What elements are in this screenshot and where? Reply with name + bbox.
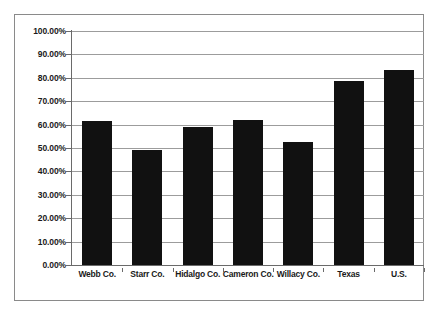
y-axis-tick-label: 50.00% bbox=[18, 144, 66, 153]
x-axis-labels: Webb Co.Starr Co.Hidalgo Co.Cameron Co.W… bbox=[72, 268, 424, 288]
y-axis-labels: 0.00%10.00%20.00%30.00%40.00%50.00%60.00… bbox=[15, 15, 66, 300]
x-axis-tick-label: Starr Co. bbox=[122, 270, 172, 279]
y-axis-tick-label: 80.00% bbox=[18, 74, 66, 83]
x-axis-tick-label: Cameron Co. bbox=[223, 270, 273, 279]
y-axis-tick-label: 0.00% bbox=[18, 261, 66, 270]
x-axis-tick-label: Texas bbox=[323, 270, 373, 279]
y-axis-tick-label: 40.00% bbox=[18, 167, 66, 176]
y-axis-tick-label: 30.00% bbox=[18, 191, 66, 200]
bar bbox=[283, 142, 313, 265]
gridline bbox=[72, 54, 424, 55]
gridline bbox=[72, 78, 424, 79]
bar bbox=[183, 127, 213, 265]
x-axis-tick-label: Hidalgo Co. bbox=[173, 270, 223, 279]
gridline bbox=[72, 101, 424, 102]
gridline bbox=[72, 265, 424, 266]
x-axis-tick-label: U.S. bbox=[374, 270, 424, 279]
chart-figure: 0.00%10.00%20.00%30.00%40.00%50.00%60.00… bbox=[14, 14, 424, 301]
bar bbox=[82, 121, 112, 265]
gridline bbox=[72, 31, 424, 32]
x-axis-tick-mark bbox=[424, 268, 425, 272]
x-axis-tick-label: Willacy Co. bbox=[273, 270, 323, 279]
y-axis-tick-label: 90.00% bbox=[18, 50, 66, 59]
plot-area bbox=[72, 31, 424, 265]
x-axis-tick-label: Webb Co. bbox=[72, 270, 122, 279]
bar bbox=[334, 81, 364, 265]
y-axis-tick-label: 60.00% bbox=[18, 121, 66, 130]
y-axis-tick-label: 100.00% bbox=[18, 27, 66, 36]
y-axis-tick-label: 10.00% bbox=[18, 238, 66, 247]
y-axis-tick-label: 20.00% bbox=[18, 214, 66, 223]
bar bbox=[233, 120, 263, 265]
bar bbox=[132, 150, 162, 265]
bar bbox=[384, 70, 414, 265]
y-axis-tick-label: 70.00% bbox=[18, 97, 66, 106]
